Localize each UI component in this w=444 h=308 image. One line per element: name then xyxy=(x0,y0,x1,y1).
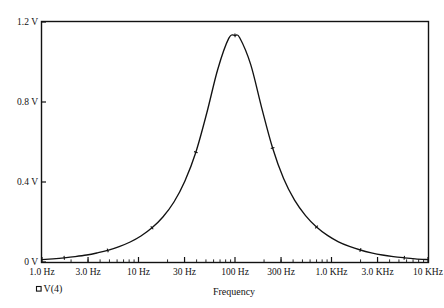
x-tick-label: 10 KHz xyxy=(413,267,443,277)
y-tick-label: 0.8 V xyxy=(17,97,38,107)
x-tick-label: 30 Hz xyxy=(173,267,196,277)
y-tick-label: 0.4 V xyxy=(17,177,38,187)
frequency-response-chart: 0 V0.4 V0.8 V1.2 V 1.0 Hz3.0 Hz10 Hz30 H… xyxy=(0,0,444,308)
x-tick-label: 1.0 KHz xyxy=(315,267,347,277)
y-tick-label: 1.2 V xyxy=(17,17,38,27)
x-tick-label: 3.0 Hz xyxy=(75,267,100,277)
x-tick-label: 3.0 KHz xyxy=(361,267,393,277)
x-tick-label: 100 Hz xyxy=(221,267,249,277)
x-tick-label: 300 Hz xyxy=(267,267,295,277)
legend[interactable]: V(4) xyxy=(37,283,63,295)
x-tick-label: 10 Hz xyxy=(127,267,150,277)
square-marker xyxy=(37,287,42,292)
x-axis-title: Frequency xyxy=(213,286,255,297)
plot-frame xyxy=(42,22,429,263)
chart-screenshot: 0 V0.4 V0.8 V1.2 V 1.0 Hz3.0 Hz10 Hz30 H… xyxy=(0,0,444,308)
x-tick-label: 1.0 Hz xyxy=(29,267,54,277)
legend-entry-label: V(4) xyxy=(44,283,63,295)
